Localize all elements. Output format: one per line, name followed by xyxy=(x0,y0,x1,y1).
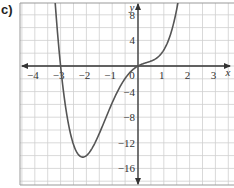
y-tick-label: −16 xyxy=(118,162,136,174)
y-tick-label: −8 xyxy=(123,111,135,123)
y-axis-arrow-up-icon xyxy=(135,3,141,10)
y-tick-label: 4 xyxy=(130,34,136,46)
x-tick-label: 3 xyxy=(211,69,217,81)
x-axis-label: x xyxy=(225,66,231,78)
x-tick-label: 2 xyxy=(185,69,191,81)
function-graph: −4−3−2−1012384−4−8−12−16xy xyxy=(0,0,234,188)
x-tick-label: −1 xyxy=(104,69,116,81)
x-tick-label: 1 xyxy=(159,69,165,81)
x-tick-label: −4 xyxy=(27,69,39,81)
y-tick-label: −4 xyxy=(123,86,135,98)
x-tick-label: −3 xyxy=(53,69,65,81)
x-tick-label: −2 xyxy=(79,69,91,81)
y-axis-label: y xyxy=(129,1,135,13)
y-tick-label: −12 xyxy=(118,137,135,149)
